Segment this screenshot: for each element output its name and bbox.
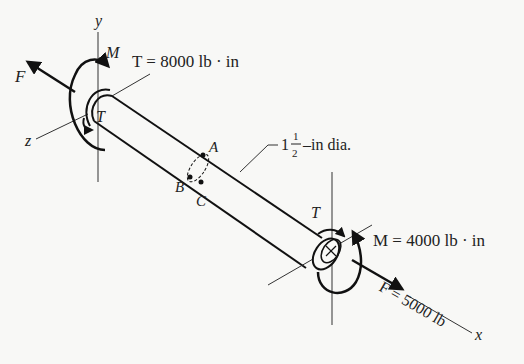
y-axis-label: y xyxy=(93,12,103,30)
force-label-left: F xyxy=(14,67,26,86)
torque-arrow-right xyxy=(318,230,344,236)
shaft xyxy=(94,96,322,268)
point-C-label: C xyxy=(196,193,207,209)
diameter-leader xyxy=(240,145,278,172)
moment-label-left: M xyxy=(105,44,121,61)
svg-text:1: 1 xyxy=(293,130,299,142)
torque-label-left: T xyxy=(96,108,106,125)
point-B-label: B xyxy=(175,179,184,195)
point-B xyxy=(188,175,193,180)
point-A xyxy=(201,153,206,158)
svg-text:2: 2 xyxy=(292,147,298,159)
z-axis-label: z xyxy=(24,132,32,149)
moment-arrow-left xyxy=(70,60,108,150)
force-arrow-left xyxy=(28,62,75,92)
x-axis-label: x xyxy=(474,326,482,343)
shaft-diagram: y z x F M T = 8000 lb · in T A B C 1 1 2… xyxy=(0,0,524,364)
diameter-label: 1 1 2 –in dia. xyxy=(281,130,351,159)
torque-value-left: T = 8000 lb · in xyxy=(132,52,240,71)
section-ABC xyxy=(183,151,213,185)
point-C xyxy=(199,180,204,185)
torque-leader-left xyxy=(112,74,150,96)
right-end-cap xyxy=(307,234,345,274)
diagram-svg: y z x F M T = 8000 lb · in T A B C 1 1 2… xyxy=(0,0,524,364)
svg-text:1: 1 xyxy=(281,136,289,153)
svg-text:–in dia.: –in dia. xyxy=(302,136,351,153)
force-value-right: F = 5000 lb xyxy=(377,278,450,330)
right-axes xyxy=(268,172,472,333)
point-A-label: A xyxy=(208,139,219,155)
moment-value-right: M = 4000 lb · in xyxy=(373,231,486,250)
torque-label-right: T xyxy=(311,204,321,221)
